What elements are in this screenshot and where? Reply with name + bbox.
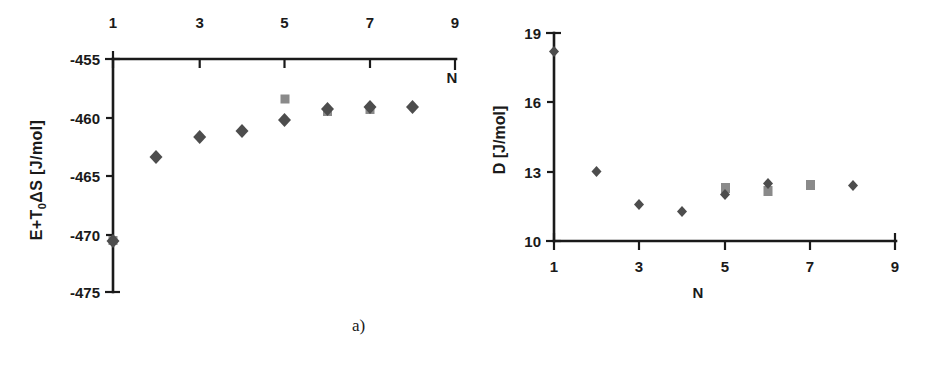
panel-b-xtick-3: 3 [635,258,643,275]
panel-a-ytick-455: -455 [70,51,100,68]
panel-a: 1 3 5 7 9 N -455 -460 -465 -470 [0,0,470,370]
panel-a-xtick-1: 1 [109,14,117,31]
panel-b-diamond-point [677,206,687,217]
panel-a-y-axis-title-suffix: ΔS [J/mol] [28,120,45,203]
panel-a-y-tick-labels: -455 -460 -465 -470 -475 [70,51,100,301]
panel-a-x-axis-title: N [447,69,458,86]
panel-b-diamond-point [848,180,858,191]
panel-a-square-series [109,95,375,246]
panel-a-diamond-point [321,102,334,116]
panel-b-ytick-16: 16 [524,94,541,111]
panel-b-xtick-9: 9 [891,258,899,275]
panel-b-square-point [806,180,815,190]
panel-a-diamond-point [150,150,163,164]
panel-b-xtick-5: 5 [721,258,729,275]
panel-a-x-tick-labels: 1 3 5 7 9 [109,14,459,31]
panel-b-ytick-13: 13 [524,164,541,181]
panel-a-ytick-460: -460 [70,110,100,127]
panel-a-diamond-point [406,100,419,114]
panel-b-y-axis-title-text: D [J/mol] [491,106,508,174]
panel-b-diamond-series [549,46,858,217]
panel-a-diamond-series [107,100,420,248]
panel-b-xtick-1: 1 [550,258,558,275]
panel-a-xtick-9: 9 [451,14,459,31]
panel-b: 19 16 13 10 D [J/mol] 1 3 5 [470,0,937,370]
panel-a-ytick-475: -475 [70,284,100,301]
panel-b-x-tick-labels: 1 3 5 7 9 [550,258,899,275]
panel-b-x-axis-title: N [693,284,704,301]
panel-b-ytick-10: 10 [524,233,541,250]
panel-b-plot: 19 16 13 10 D [J/mol] 1 3 5 [470,0,937,370]
panel-b-y-axis-title: D [J/mol] [491,106,508,174]
svg-text:E+T0ΔS [J/mol]: E+T0ΔS [J/mol] [28,120,48,241]
panel-b-ytick-19: 19 [524,25,541,42]
panel-a-xtick-3: 3 [196,14,204,31]
panel-a-ytick-465: -465 [70,168,100,185]
panel-a-x-ticks [113,51,455,70]
panel-b-xtick-7: 7 [806,258,814,275]
panel-a-xtick-7: 7 [366,14,374,31]
panel-b-diamond-point [549,46,559,57]
panel-a-diamond-point [107,234,120,248]
panel-a-diamond-point [236,124,249,138]
panel-b-y-tick-labels: 19 16 13 10 [524,25,541,250]
panel-a-y-axis-title: E+T0ΔS [J/mol] [28,120,48,241]
panel-a-caption: a) [352,316,365,336]
panel-a-diamond-point [364,100,377,114]
panel-a-diamond-point [193,130,206,144]
panel-a-xtick-5: 5 [280,14,288,31]
panel-a-ytick-470: -470 [70,227,100,244]
panel-b-diamond-point [592,166,602,177]
panel-a-square-point [281,95,290,104]
panel-a-plot: 1 3 5 7 9 N -455 -460 -465 -470 [0,0,470,370]
panel-a-y-axis-title-prefix: E+T [28,209,45,240]
panel-b-diamond-point [634,199,644,210]
figure-container: 1 3 5 7 9 N -455 -460 -465 -470 [0,0,937,370]
panel-a-diamond-point [278,113,291,127]
